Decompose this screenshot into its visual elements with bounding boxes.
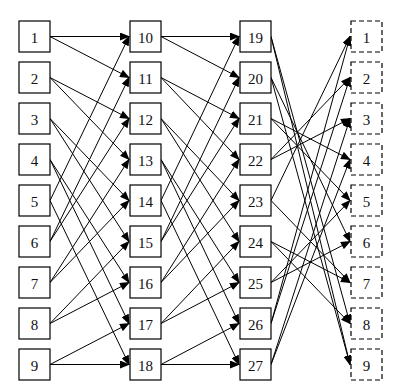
edge-arrow	[161, 78, 239, 242]
edge-arrow	[271, 37, 350, 201]
node-label: 14	[138, 194, 154, 210]
edge-arrow	[271, 119, 350, 201]
node-input-9: 9	[19, 349, 50, 380]
edge-arrow	[271, 242, 350, 324]
node-label: 2	[31, 71, 39, 87]
node-stage-2-24: 24	[240, 226, 271, 257]
node-input-4: 4	[19, 144, 50, 175]
node-label: 9	[31, 358, 39, 374]
node-label: 26	[248, 317, 264, 333]
edge-arrow	[50, 324, 129, 365]
edge-arrow	[271, 78, 350, 365]
node-label: 16	[138, 276, 154, 292]
edge-arrow	[271, 160, 350, 365]
edge-arrow	[161, 283, 239, 324]
node-stage-2-19: 19	[240, 21, 271, 52]
node-stage-1-14: 14	[130, 185, 161, 216]
node-stage-1-15: 15	[130, 226, 161, 257]
node-output-2: 2	[351, 62, 382, 93]
edge-arrow	[161, 78, 239, 119]
edge-arrow	[161, 37, 239, 78]
node-output-5: 5	[351, 185, 382, 216]
edge-arrow	[161, 201, 239, 283]
nodes-layer: 1234567891011121314151617181920212223242…	[19, 21, 382, 380]
node-label: 6	[363, 235, 371, 251]
node-stage-1-10: 10	[130, 21, 161, 52]
node-stage-2-25: 25	[240, 267, 271, 298]
node-input-1: 1	[19, 21, 50, 52]
node-label: 17	[138, 317, 154, 333]
edge-arrow	[271, 119, 350, 365]
node-label: 27	[248, 358, 264, 374]
node-label: 22	[248, 153, 263, 169]
node-label: 19	[248, 30, 263, 46]
node-label: 3	[31, 112, 39, 128]
node-label: 8	[363, 317, 371, 333]
node-label: 6	[31, 235, 39, 251]
node-stage-2-26: 26	[240, 308, 271, 339]
node-label: 1	[363, 30, 371, 46]
node-label: 15	[138, 235, 153, 251]
node-label: 1	[31, 30, 39, 46]
node-label: 8	[31, 317, 39, 333]
node-output-8: 8	[351, 308, 382, 339]
node-stage-2-20: 20	[240, 62, 271, 93]
node-input-2: 2	[19, 62, 50, 93]
edge-arrow	[161, 242, 239, 324]
node-output-1: 1	[351, 21, 382, 52]
node-label: 4	[363, 153, 371, 169]
edges-layer	[50, 37, 350, 365]
node-output-9: 9	[351, 349, 382, 380]
node-label: 18	[138, 358, 153, 374]
node-stage-1-17: 17	[130, 308, 161, 339]
node-stage-2-21: 21	[240, 103, 271, 134]
node-stage-2-27: 27	[240, 349, 271, 380]
edge-arrow	[50, 201, 129, 283]
node-stage-1-16: 16	[130, 267, 161, 298]
node-label: 9	[363, 358, 371, 374]
node-label: 25	[248, 276, 263, 292]
node-label: 11	[138, 71, 152, 87]
node-label: 10	[138, 30, 153, 46]
edge-arrow	[50, 78, 129, 119]
edge-arrow	[50, 78, 129, 242]
node-stage-2-23: 23	[240, 185, 271, 216]
node-output-7: 7	[351, 267, 382, 298]
node-label: 13	[138, 153, 153, 169]
node-input-5: 5	[19, 185, 50, 216]
node-output-3: 3	[351, 103, 382, 134]
node-label: 12	[138, 112, 153, 128]
edge-arrow	[271, 78, 350, 324]
edge-arrow	[161, 324, 239, 365]
node-label: 3	[363, 112, 371, 128]
edge-arrow	[50, 37, 129, 201]
node-output-6: 6	[351, 226, 382, 257]
node-label: 7	[363, 276, 371, 292]
edge-arrow	[50, 37, 129, 78]
node-input-8: 8	[19, 308, 50, 339]
edge-arrow	[161, 37, 239, 201]
node-label: 21	[248, 112, 263, 128]
node-label: 7	[31, 276, 39, 292]
node-output-4: 4	[351, 144, 382, 175]
node-label: 24	[248, 235, 264, 251]
node-stage-1-11: 11	[130, 62, 161, 93]
network-diagram: 1234567891011121314151617181920212223242…	[0, 0, 400, 392]
node-stage-1-13: 13	[130, 144, 161, 175]
node-stage-1-12: 12	[130, 103, 161, 134]
node-stage-1-18: 18	[130, 349, 161, 380]
edge-arrow	[50, 242, 129, 324]
node-input-3: 3	[19, 103, 50, 134]
node-label: 5	[31, 194, 39, 210]
node-label: 4	[31, 153, 39, 169]
node-stage-2-22: 22	[240, 144, 271, 175]
node-label: 5	[363, 194, 371, 210]
edge-arrow	[50, 283, 129, 324]
node-input-6: 6	[19, 226, 50, 257]
node-label: 2	[363, 71, 371, 87]
node-label: 23	[248, 194, 263, 210]
node-label: 20	[248, 71, 263, 87]
node-input-7: 7	[19, 267, 50, 298]
